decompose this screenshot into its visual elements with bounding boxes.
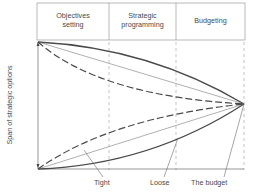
y-axis-label: Span of strategic options — [5, 65, 14, 144]
phase-budgeting: Budgeting — [176, 0, 245, 40]
upper-straight-line — [38, 42, 244, 104]
phase-label: Budgeting — [194, 16, 226, 25]
tight-label: Tight — [94, 178, 110, 187]
budget-label: The budget — [191, 178, 227, 187]
phase-strategic-programming: Strategic programming — [109, 0, 176, 40]
loose-label: Loose — [150, 178, 170, 187]
y-axis-arrow-down-icon — [37, 164, 40, 168]
tight-leader-line — [84, 150, 103, 177]
phase-objectives-setting: Objectives setting — [37, 0, 109, 40]
phase-label: Strategic programming — [121, 11, 163, 29]
phase-label: Objectives setting — [56, 11, 90, 29]
lower-straight-line — [38, 104, 244, 169]
